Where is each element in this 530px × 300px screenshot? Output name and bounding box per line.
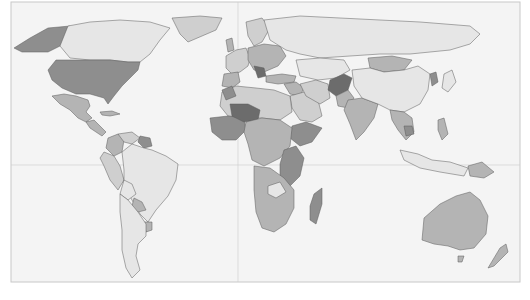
map-canvas: AlaskaCanadaGreenlandUnited StatesMexico… xyxy=(0,0,530,300)
region-cambodia: Cambodia xyxy=(404,126,414,136)
world-choropleth-map: AlaskaCanadaGreenlandUnited StatesMexico… xyxy=(0,0,530,300)
